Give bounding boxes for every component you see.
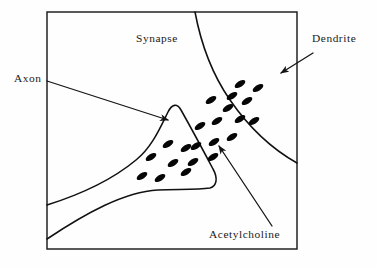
figure-root: Synapse Dendrite Axon Acetylcholine <box>0 0 377 267</box>
vesicle <box>166 157 179 168</box>
vesicle <box>144 151 157 162</box>
vesicle <box>225 131 238 142</box>
vesicle <box>161 138 174 149</box>
acetylcholine-leader-line <box>219 146 272 226</box>
vesicle <box>153 172 166 183</box>
label-acetylcholine: Acetylcholine <box>209 228 280 240</box>
vesicle <box>179 166 192 177</box>
vesicle <box>251 82 264 93</box>
vesicle <box>186 156 199 167</box>
label-dendrite: Dendrite <box>312 32 356 44</box>
axon-leader-line <box>47 81 168 120</box>
label-synapse: Synapse <box>136 32 178 44</box>
vesicle <box>179 142 192 153</box>
vesicle <box>210 115 223 126</box>
axon-terminal-outline <box>47 105 216 239</box>
vesicle <box>240 95 253 106</box>
vesicle <box>204 94 217 105</box>
vesicle-group-terminal <box>135 138 192 183</box>
diagram-frame <box>47 12 297 249</box>
vesicle <box>233 78 246 89</box>
dendrite-membrane <box>195 12 297 163</box>
vesicle <box>135 170 148 181</box>
vesicle <box>193 120 206 131</box>
synapse-diagram: Synapse Dendrite Axon Acetylcholine <box>0 0 377 267</box>
label-axon: Axon <box>14 72 42 84</box>
